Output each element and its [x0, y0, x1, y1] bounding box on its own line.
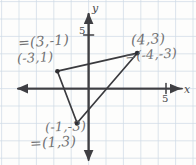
- triangle-edge-c: [57, 71, 77, 123]
- vertex-left: [55, 69, 60, 74]
- x-axis-label: x: [184, 83, 190, 96]
- graph-figure: y x 5 5 =(3,-1) (-3,1) (4,3) =(-4,-3) (-…: [0, 0, 196, 165]
- y-axis-label: y: [92, 2, 98, 15]
- annotation-right-top: (4,3): [131, 30, 166, 48]
- annotation-left-bottom: (-3,1): [17, 49, 54, 66]
- annotation-bottom-bottom: =(1,3): [30, 133, 77, 151]
- y-tick-label-5: 5: [79, 25, 85, 36]
- x-tick-label-5: 5: [162, 93, 168, 104]
- triangle-edge-b: [77, 53, 137, 123]
- annotation-bottom-top: (-1,-3): [45, 118, 87, 134]
